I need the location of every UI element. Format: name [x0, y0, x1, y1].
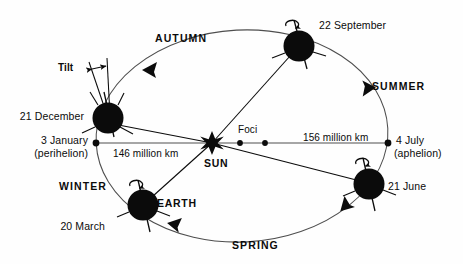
- line-sun-june: [212, 143, 368, 183]
- date-label-september: 22 September: [319, 20, 386, 32]
- focus-dot-2: [262, 140, 268, 146]
- distance-label-perihelion: 146 million km: [113, 148, 178, 159]
- tilt-label: Tilt: [58, 62, 73, 73]
- orbit-diagram: AUTUMN SUMMER WINTER SPRING Tilt 21 Dece…: [0, 0, 463, 264]
- earth-globe-september: [272, 20, 326, 69]
- line-sun-december: [108, 123, 212, 143]
- distance-label-aphelion: 156 million km: [303, 132, 368, 143]
- autumn-arrowhead: [142, 62, 157, 78]
- perihelion-point-icon: [93, 140, 100, 147]
- aphelion-point-icon: [385, 140, 392, 147]
- season-label-autumn: AUTUMN: [155, 33, 207, 45]
- date-label-december: 21 December: [0, 111, 84, 123]
- date-label-aphelion: 4 July: [396, 135, 424, 147]
- date-label-perihelion: 3 January: [0, 135, 88, 147]
- season-label-spring: SPRING: [232, 240, 279, 252]
- tilt-angle-arrow: [92, 66, 106, 69]
- rotation-arrow-june: [356, 158, 369, 166]
- rotation-arrow-march: [130, 180, 143, 188]
- foci-label: Foci: [238, 124, 257, 135]
- spring-arrowhead: [166, 216, 182, 233]
- season-label-summer: SUMMER: [372, 81, 425, 93]
- sun-label: SUN: [204, 158, 228, 170]
- note-label-aphelion: (aphelion): [394, 148, 442, 160]
- focus-dot-1: [237, 140, 243, 146]
- note-label-perihelion: (perihelion): [0, 148, 88, 160]
- season-label-winter: WINTER: [59, 181, 107, 193]
- earth-label: EARTH: [157, 198, 197, 210]
- date-label-june: 21 June: [388, 181, 426, 193]
- rotation-arrow-september: [286, 20, 299, 28]
- date-label-march: 20 March: [30, 221, 105, 233]
